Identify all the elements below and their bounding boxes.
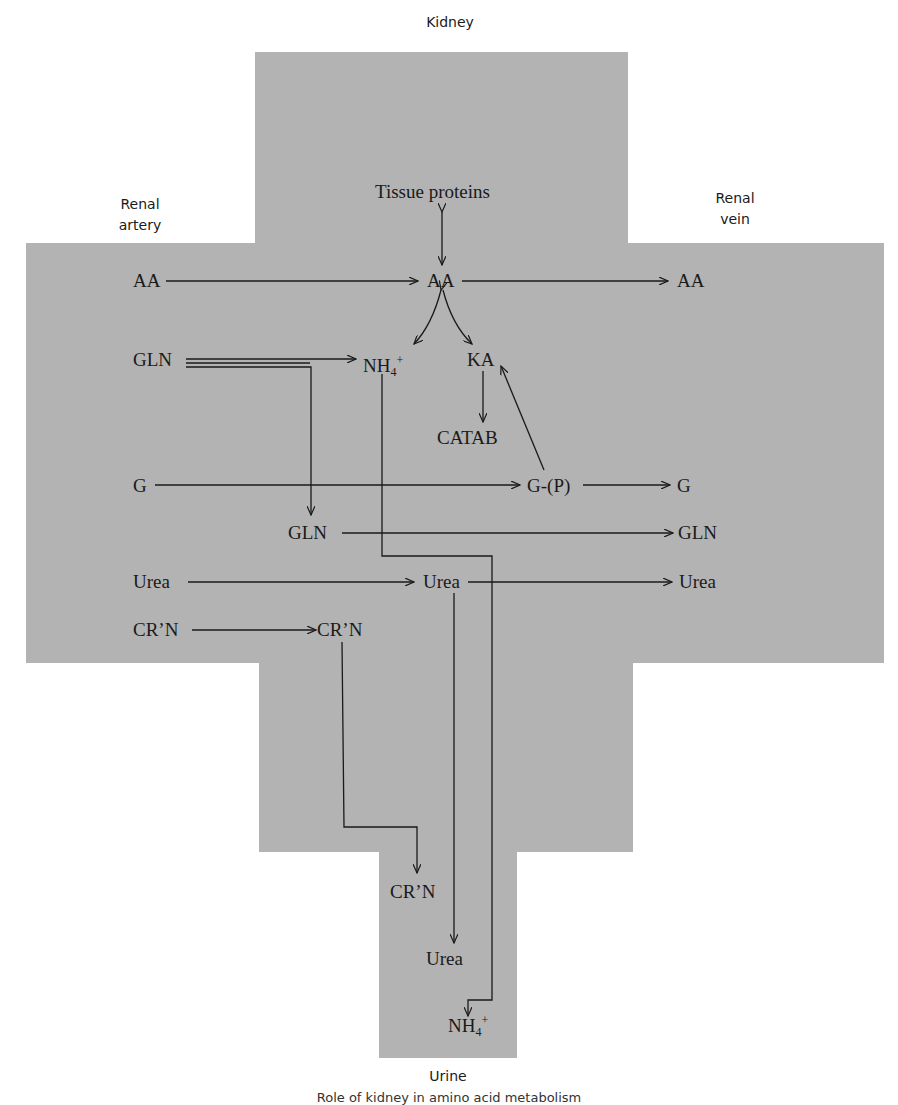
node-g-artery: G <box>133 476 147 496</box>
node-ka: KA <box>467 350 494 370</box>
node-urea-artery: Urea <box>133 572 170 592</box>
node-aa-kidney: AA <box>427 271 454 291</box>
node-crn-artery: CR’N <box>133 620 178 640</box>
node-aa-vein: AA <box>677 271 704 291</box>
urine-nh4-superscript: + <box>481 1013 488 1027</box>
node-nh4-kidney: NH4+ <box>363 350 403 382</box>
node-urea-urine: Urea <box>426 949 463 969</box>
node-crn-kidney: CR’N <box>317 620 362 640</box>
node-urea-kidney: Urea <box>423 572 460 592</box>
nh4-subscript: 4 <box>390 365 396 379</box>
node-g-phosphate: G-(P) <box>527 476 570 496</box>
node-aa-artery: AA <box>133 271 160 291</box>
node-crn-urine: CR’N <box>390 882 435 902</box>
nh4-text: NH <box>363 355 390 376</box>
node-gln-artery: GLN <box>133 350 172 370</box>
node-g-vein: G <box>677 476 691 496</box>
figure-caption: Role of kidney in amino acid metabolism <box>0 1090 898 1105</box>
node-gln-vein: GLN <box>678 523 717 543</box>
node-tissue-proteins: Tissue proteins <box>375 182 490 202</box>
urine-nh4-text: NH <box>448 1015 475 1036</box>
node-nh4-urine: NH4+ <box>448 1010 488 1042</box>
nh4-superscript: + <box>396 353 403 367</box>
node-gln-kidney: GLN <box>288 523 327 543</box>
node-urea-vein: Urea <box>679 572 716 592</box>
node-catab: CATAB <box>437 428 498 448</box>
urine-nh4-subscript: 4 <box>475 1025 481 1039</box>
